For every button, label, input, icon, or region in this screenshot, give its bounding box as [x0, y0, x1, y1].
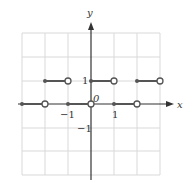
- step-function-graph: x y 0 −1 1 1 −1: [0, 0, 189, 184]
- closed-dot: [20, 102, 24, 106]
- closed-dot: [66, 102, 70, 106]
- open-dot: [111, 78, 117, 84]
- y-tick-label-neg1: −1: [77, 123, 92, 134]
- closed-dot: [112, 102, 116, 106]
- y-tick-label-1: 1: [82, 75, 88, 86]
- closed-dot: [89, 79, 93, 83]
- closed-dot: [135, 79, 139, 83]
- x-axis-label: x: [177, 99, 183, 110]
- open-dot: [88, 101, 94, 107]
- open-dot: [65, 78, 71, 84]
- open-dot: [134, 101, 140, 107]
- closed-dot: [43, 79, 47, 83]
- x-tick-label-neg1: −1: [60, 109, 75, 120]
- x-axis-arrow-icon: [166, 101, 174, 107]
- y-axis-label: y: [86, 7, 93, 18]
- closed-endpoints: [20, 79, 139, 106]
- x-tick-label-1: 1: [112, 109, 118, 120]
- open-dot: [42, 101, 48, 107]
- y-axis-arrow-icon: [88, 22, 94, 30]
- open-dot: [157, 78, 163, 84]
- open-endpoints: [42, 78, 163, 107]
